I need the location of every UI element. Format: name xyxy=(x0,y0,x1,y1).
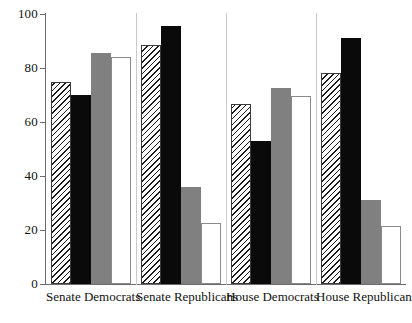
x-axis-label: Senate Republicans xyxy=(136,290,226,304)
bar xyxy=(341,38,361,284)
x-axis-label: Senate Democrats xyxy=(46,290,136,304)
bar xyxy=(71,95,91,284)
bar xyxy=(181,187,201,284)
bar xyxy=(141,45,161,284)
clipped-title-strip xyxy=(0,0,412,5)
y-axis-tick-label: 0 xyxy=(31,277,38,290)
y-axis-tick-label: 80 xyxy=(25,61,38,74)
x-axis-label: House Democrats xyxy=(226,290,316,304)
bar-chart: 020406080100 Senate DemocratsSenate Repu… xyxy=(0,0,412,323)
bar-group xyxy=(226,14,316,284)
bar xyxy=(251,141,271,284)
bar xyxy=(381,226,401,284)
bar-group xyxy=(46,14,136,284)
bar xyxy=(361,200,381,284)
bar xyxy=(161,26,181,284)
bar-group xyxy=(316,14,406,284)
bar xyxy=(321,73,341,284)
bar-group xyxy=(136,14,226,284)
plot-area xyxy=(46,14,406,284)
bar xyxy=(91,53,111,284)
y-axis-tick xyxy=(40,284,46,285)
bar xyxy=(291,96,311,284)
bar xyxy=(111,57,131,284)
y-axis-tick-label: 100 xyxy=(18,7,38,20)
x-axis-label: House Republicans xyxy=(316,290,406,304)
y-axis-tick-label: 40 xyxy=(25,169,38,182)
bar xyxy=(271,88,291,284)
bar xyxy=(201,223,221,284)
bar xyxy=(231,104,251,284)
y-axis-tick-label: 60 xyxy=(25,115,38,128)
bar xyxy=(51,82,71,285)
y-axis-tick-label: 20 xyxy=(25,223,38,236)
